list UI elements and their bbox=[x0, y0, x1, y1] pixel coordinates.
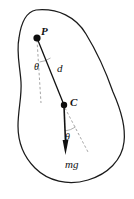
weight-label: mg bbox=[65, 158, 79, 170]
angle-label-pivot: θ bbox=[34, 61, 39, 72]
com-label: C bbox=[70, 96, 78, 108]
pivot-node bbox=[33, 34, 40, 41]
physics-diagram: P C d θ θ mg bbox=[0, 0, 134, 199]
pivot-label: P bbox=[41, 25, 48, 37]
diagram-canvas: P C d θ θ mg bbox=[0, 0, 134, 199]
distance-label: d bbox=[57, 62, 63, 74]
angle-label-com: θ bbox=[65, 131, 70, 142]
